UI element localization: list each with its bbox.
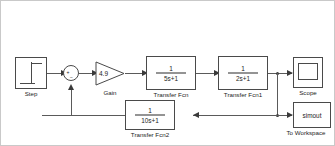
transfer-fcn1-numerator: 1 (219, 65, 267, 72)
step-waveform-low-icon (20, 83, 35, 84)
arrow-into-tf2 (193, 112, 199, 118)
transfer-fcn1-denominator: 2s+1 (219, 75, 267, 82)
transfer-fcn2-fraction: 1 10s+1 (126, 107, 174, 124)
fraction-bar-icon (156, 73, 186, 74)
block-transfer-fcn[interactable]: 1 5s+1 (146, 56, 196, 90)
label-step: Step (5, 90, 57, 97)
sum-minus-sign: − (70, 75, 73, 80)
label-transfer-fcn: Transfer Fcn (141, 91, 201, 98)
label-gain: Gain (85, 89, 135, 96)
block-diagram-canvas: Step + − 4.9 Gain 1 5s+1 Transfer Fcn 1 … (0, 0, 335, 146)
to-workspace-variable: simout (294, 112, 330, 119)
step-waveform-icon (31, 62, 32, 84)
block-to-workspace[interactable]: simout (293, 102, 331, 128)
scope-screen-icon (298, 63, 318, 80)
transfer-fcn-fraction: 1 5s+1 (147, 65, 195, 82)
transfer-fcn1-fraction: 1 2s+1 (219, 65, 267, 82)
gain-value: 4.9 (99, 70, 108, 77)
transfer-fcn2-denominator: 10s+1 (126, 117, 174, 124)
sum-plus-sign: + (67, 70, 70, 75)
transfer-fcn-denominator: 5s+1 (147, 75, 195, 82)
block-scope[interactable] (293, 57, 323, 88)
block-transfer-fcn1[interactable]: 1 2s+1 (218, 56, 268, 90)
transfer-fcn-numerator: 1 (147, 65, 195, 72)
fraction-bar-icon (135, 115, 165, 116)
fraction-bar-icon (228, 73, 258, 74)
step-waveform-high-icon (31, 63, 42, 64)
label-transfer-fcn1: Transfer Fcn1 (213, 91, 273, 98)
label-transfer-fcn2: Transfer Fcn2 (120, 131, 180, 138)
block-transfer-fcn2[interactable]: 1 10s+1 (125, 100, 175, 130)
label-to-workspace: To Workspace (277, 129, 335, 136)
label-scope: Scope (283, 89, 333, 96)
block-step[interactable] (15, 57, 47, 89)
wire-branch-down (277, 73, 278, 115)
arrow-feedback-into-sum (68, 84, 74, 90)
block-sum-junction[interactable]: + − (63, 65, 79, 81)
wire-feedback-to-tf2 (193, 115, 277, 116)
transfer-fcn2-numerator: 1 (126, 107, 174, 114)
wire-tf2-to-sum-v (71, 87, 72, 115)
wire-tf2-to-sum-h (42, 115, 125, 116)
